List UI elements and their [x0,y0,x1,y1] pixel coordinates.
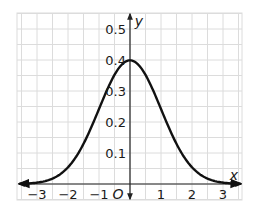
y-tick-label: 0.1 [105,146,126,161]
x-tick-label: 1 [157,187,165,202]
y-tick-label: 0.3 [105,84,126,99]
x-tick-label: 2 [188,187,196,202]
x-tick-label: −2 [58,187,77,202]
y-axis-label: y [134,13,144,29]
x-tick-label: −1 [89,187,108,202]
x-axis-label: x [229,167,239,183]
x-tick-label: −3 [27,187,46,202]
origin-label: O [112,186,123,202]
normal-distribution-chart: −3−2−11230.10.20.30.40.5Oxy [0,0,255,211]
y-tick-label: 0.4 [105,53,126,68]
y-tick-label: 0.5 [105,22,126,37]
y-tick-label: 0.2 [105,115,126,130]
x-tick-label: 3 [219,187,227,202]
